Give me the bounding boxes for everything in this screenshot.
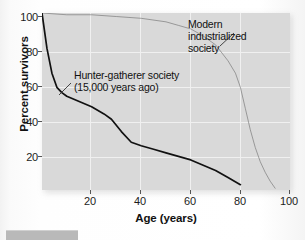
leader-line-hunter: [59, 83, 71, 95]
xtick-mark-60: [190, 190, 191, 194]
ytick-mark-20: [38, 156, 42, 157]
xtick-label-80: 80: [223, 195, 257, 207]
ytick-label-20: 20: [8, 151, 38, 163]
annotation-hunter-gatherer: Hunter-gatherer society (15,000 years ag…: [74, 69, 179, 93]
ytick-mark-40: [38, 121, 42, 122]
ytick-mark-60: [38, 86, 42, 87]
ytick-label-100: 100: [8, 11, 38, 23]
xtick-mark-40: [140, 190, 141, 194]
xtick-label-60: 60: [173, 195, 207, 207]
xtick-mark-80: [240, 190, 241, 194]
xtick-label-20: 20: [73, 195, 107, 207]
y-axis-title: Percent survivors: [18, 24, 30, 144]
figure-caption-bar: [6, 230, 78, 240]
figure-root: Modern industrialized society Hunter-gat…: [0, 0, 305, 240]
xtick-label-100: 100: [272, 195, 305, 207]
plot-area: Modern industrialized society Hunter-gat…: [42, 13, 290, 190]
ytick-mark-80: [38, 51, 42, 52]
xtick-label-40: 40: [123, 195, 157, 207]
leader-lines-svg: [42, 13, 290, 190]
ytick-mark-100: [38, 16, 42, 17]
xtick-mark-100: [289, 190, 290, 194]
xtick-mark-20: [90, 190, 91, 194]
annotation-modern-industrialized: Modern industrialized society: [188, 18, 246, 54]
x-axis-title: Age (years): [42, 212, 290, 224]
